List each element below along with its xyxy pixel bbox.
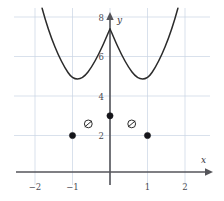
y-tick-label-8: 8: [99, 13, 104, 23]
x-axis-tick-labels: −2 −1 1 2: [29, 182, 188, 192]
x-tick-label-2: 2: [182, 182, 187, 192]
x-tick-label--1: −1: [66, 182, 79, 192]
y-axis-arrowhead: [106, 12, 113, 20]
x-tick-label--2: −2: [29, 182, 42, 192]
local-minimum-right-point: [144, 132, 150, 138]
inflection-point-left-marker: [84, 120, 92, 128]
local-minimum-left-point: [69, 132, 75, 138]
y-tick-label-4: 4: [99, 92, 104, 102]
chart-figure: −2 −1 1 2 2 4 6 8 x y: [0, 0, 224, 201]
y-axis-tick-labels: 2 4 6 8: [99, 13, 104, 142]
y-tick-label-2: 2: [99, 131, 104, 141]
y-axis-label: y: [116, 15, 123, 25]
function-plot: −2 −1 1 2 2 4 6 8 x y: [0, 0, 224, 201]
x-axis-arrowhead: [205, 168, 213, 175]
x-axis-label: x: [201, 155, 206, 165]
x-tick-label-1: 1: [145, 182, 150, 192]
inflection-point-right-marker: [128, 120, 136, 128]
y-tick-label-6: 6: [99, 52, 104, 62]
local-maximum-center-point: [107, 113, 113, 119]
